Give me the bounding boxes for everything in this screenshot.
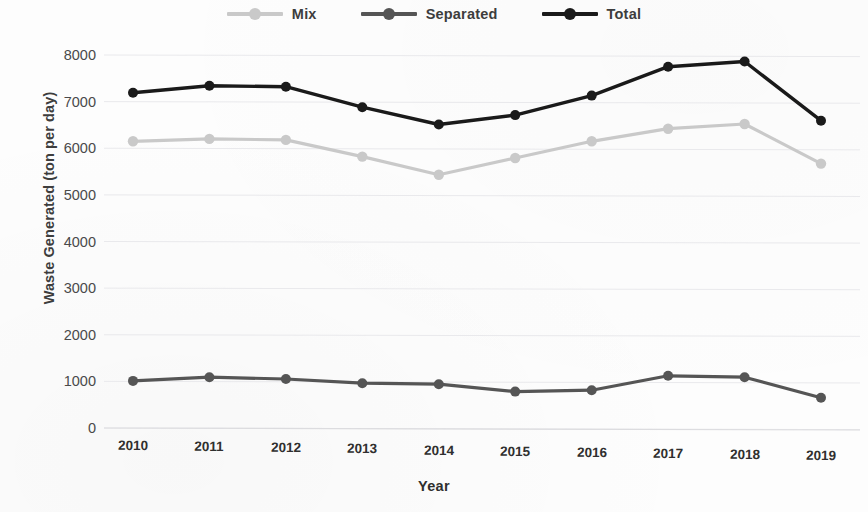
data-point[interactable] [128, 136, 138, 146]
data-point[interactable] [816, 393, 826, 403]
data-point[interactable] [281, 374, 291, 384]
data-point[interactable] [816, 116, 826, 126]
data-point[interactable] [128, 88, 138, 98]
data-point[interactable] [204, 372, 214, 382]
gridline [104, 242, 860, 244]
data-point[interactable] [510, 387, 520, 397]
gridline [104, 148, 860, 150]
data-point[interactable] [434, 170, 444, 180]
data-point[interactable] [587, 385, 597, 395]
data-point[interactable] [204, 134, 214, 144]
gridline [104, 288, 860, 290]
series-separated[interactable] [128, 371, 826, 403]
plot-svg [0, 0, 868, 512]
series-line [133, 376, 821, 398]
data-point[interactable] [740, 372, 750, 382]
data-point[interactable] [128, 376, 138, 386]
data-point[interactable] [281, 135, 291, 145]
data-point[interactable] [816, 158, 826, 168]
data-point[interactable] [434, 120, 444, 130]
data-point[interactable] [587, 91, 597, 101]
data-point[interactable] [357, 151, 367, 161]
data-point[interactable] [663, 371, 673, 381]
plot-area [0, 0, 868, 512]
data-point[interactable] [510, 110, 520, 120]
data-point[interactable] [663, 124, 673, 134]
data-point[interactable] [739, 119, 749, 129]
gridline [104, 195, 860, 197]
data-point[interactable] [434, 379, 444, 389]
data-point[interactable] [587, 136, 597, 146]
data-point[interactable] [281, 82, 291, 92]
data-point[interactable] [357, 102, 367, 112]
gridline [104, 55, 860, 57]
data-point[interactable] [663, 62, 673, 72]
data-point[interactable] [740, 57, 750, 67]
gridline [104, 102, 860, 104]
data-point[interactable] [357, 378, 367, 388]
data-point[interactable] [204, 81, 214, 91]
gridline [104, 335, 860, 337]
series-line [133, 62, 821, 125]
chart-figure: MixSeparatedTotal Waste Generated (ton p… [0, 0, 868, 512]
series-total[interactable] [128, 57, 826, 130]
data-point[interactable] [510, 153, 520, 163]
